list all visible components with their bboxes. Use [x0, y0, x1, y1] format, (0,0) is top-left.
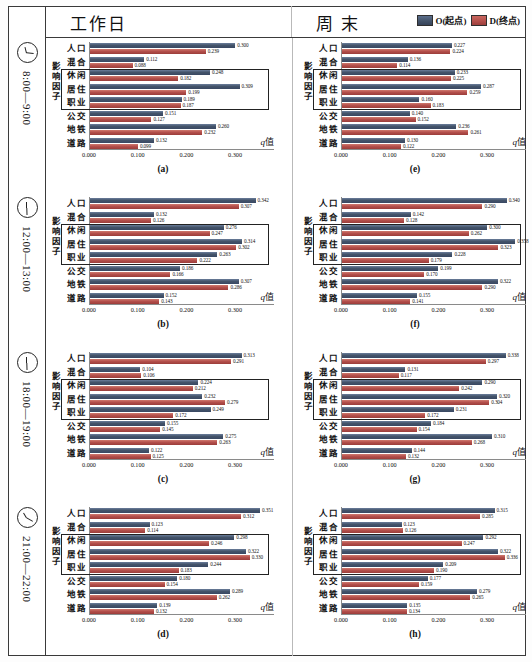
bar-destination-7 — [90, 299, 159, 304]
bar-group-3: 0.3220.330 — [90, 548, 274, 562]
bar-destination-1 — [342, 63, 397, 68]
category-label-2: 休闲 — [312, 224, 338, 238]
bar-value-destination-0: 0.312 — [243, 513, 254, 519]
bar-destination-2 — [342, 231, 469, 236]
bar-destination-0 — [342, 514, 480, 519]
bar-group-0: 0.3420.307 — [90, 197, 274, 211]
bar-group-7: 0.1550.141 — [342, 292, 526, 306]
bar-destination-1 — [90, 63, 133, 68]
bar-origin-5 — [90, 111, 163, 116]
bar-group-2: 0.2760.247 — [90, 224, 274, 238]
legend-item-destination: D(终点) — [471, 14, 521, 27]
category-label-7: 道路 — [60, 447, 86, 461]
category-label-1: 混合 — [60, 56, 86, 70]
bar-value-destination-6: 0.286 — [230, 284, 241, 290]
category-label-0: 人口 — [60, 42, 86, 56]
bar-value-destination-6: 0.232 — [204, 129, 215, 135]
bar-value-destination-7: 0.125 — [153, 453, 164, 459]
bar-origin-5 — [342, 266, 438, 271]
bar-group-7: 0.1220.125 — [90, 447, 274, 461]
category-label-1: 混合 — [60, 521, 86, 535]
clock-icon — [17, 197, 38, 218]
bar-destination-7 — [342, 144, 401, 149]
bar-group-0: 0.3000.239 — [90, 42, 274, 56]
bar-destination-7 — [90, 609, 154, 614]
bar-value-origin-0: 0.338 — [508, 352, 519, 358]
bar-value-destination-4: 0.179 — [431, 257, 442, 263]
time-row-2: 12:00—13:00 — [8, 193, 46, 348]
bar-origin-5 — [90, 576, 177, 581]
bar-origin-4 — [90, 97, 182, 102]
bar-value-origin-4: 0.228 — [454, 251, 465, 257]
bar-value-destination-4: 0.183 — [181, 567, 192, 573]
bar-value-destination-5: 0.145 — [162, 426, 173, 432]
bar-destination-4 — [90, 103, 181, 108]
panel-caption-d: (d) — [48, 629, 278, 639]
category-label-4: 职业 — [312, 96, 338, 110]
bar-value-destination-0: 0.239 — [208, 48, 219, 54]
category-label-1: 混合 — [60, 366, 86, 380]
x-tick-2: 0.200 — [179, 616, 193, 623]
bar-value-destination-1: 0.114 — [399, 62, 410, 68]
panel-caption-c: (c) — [48, 474, 278, 484]
bar-destination-1 — [90, 218, 151, 223]
category-label-4: 职业 — [60, 251, 86, 265]
bar-destination-2 — [342, 541, 462, 546]
bar-group-6: 0.2600.232 — [90, 123, 274, 137]
bar-destination-0 — [90, 514, 241, 519]
x-tick-3: 0.300 — [480, 306, 494, 313]
bar-origin-1 — [342, 522, 402, 527]
category-label-2: 休闲 — [60, 69, 86, 83]
category-label-5: 公交 — [312, 420, 338, 434]
panel-caption-h: (h) — [300, 629, 530, 639]
x-tick-0: 0.000 — [334, 306, 348, 313]
x-axis-label: q值 — [261, 600, 275, 613]
x-axis-label: q值 — [261, 135, 275, 148]
header-weekday-title: 工作日 — [70, 10, 127, 35]
bar-destination-7 — [90, 144, 138, 149]
x-axis-label: q值 — [513, 290, 527, 303]
bar-destination-7 — [342, 609, 407, 614]
bar-origin-3 — [342, 84, 481, 89]
bar-group-5: 0.1400.152 — [342, 110, 526, 124]
bar-origin-5 — [90, 266, 180, 271]
header-weekend-title: 周 末 — [316, 10, 360, 35]
bar-destination-3 — [90, 90, 186, 95]
bar-group-1: 0.1360.114 — [342, 56, 526, 70]
bar-group-1: 0.1040.106 — [90, 366, 274, 380]
x-tick-1: 0.100 — [383, 151, 397, 158]
category-label-3: 居住 — [60, 238, 86, 252]
bar-origin-6 — [342, 279, 498, 284]
bar-group-3: 0.2320.279 — [90, 393, 274, 407]
x-tick-3: 0.300 — [480, 151, 494, 158]
bar-value-destination-0: 0.291 — [233, 358, 244, 364]
category-label-1: 混合 — [312, 56, 338, 70]
legend-swatch-destination-icon — [471, 15, 487, 26]
bar-value-origin-5: 0.151 — [165, 110, 176, 116]
bar-destination-1 — [90, 528, 145, 533]
bar-group-0: 0.3130.291 — [90, 352, 274, 366]
legend-label-origin: O(起点) — [436, 14, 467, 27]
bar-group-0: 0.3150.285 — [342, 507, 526, 521]
bar-destination-2 — [342, 386, 459, 391]
category-label-5: 公交 — [60, 420, 86, 434]
bar-origin-0 — [90, 198, 256, 203]
bar-value-destination-7: 0.141 — [412, 298, 423, 304]
bar-origin-7 — [342, 293, 417, 298]
category-label-4: 职业 — [312, 406, 338, 420]
x-tick-1: 0.100 — [383, 616, 397, 623]
bar-value-origin-5: 0.184 — [433, 420, 444, 426]
x-axis-label: q值 — [513, 445, 527, 458]
chart-panel-h: 影响因子人口混合休闲居住职业公交地铁道路0.3150.2850.1230.126… — [300, 503, 530, 653]
category-label-2: 休闲 — [60, 224, 86, 238]
bar-value-destination-5: 0.154 — [167, 581, 178, 587]
bar-value-destination-1: 0.126 — [405, 527, 416, 533]
x-tick-0: 0.000 — [334, 461, 348, 468]
bar-group-7: 0.1520.143 — [90, 292, 274, 306]
bar-group-6: 0.3070.286 — [90, 278, 274, 292]
bar-value-destination-1: 0.117 — [401, 372, 412, 378]
bar-destination-5 — [90, 582, 165, 587]
category-label-7: 道路 — [312, 137, 338, 151]
category-label-3: 居住 — [312, 238, 338, 252]
bar-group-3: 0.3580.323 — [342, 238, 526, 252]
